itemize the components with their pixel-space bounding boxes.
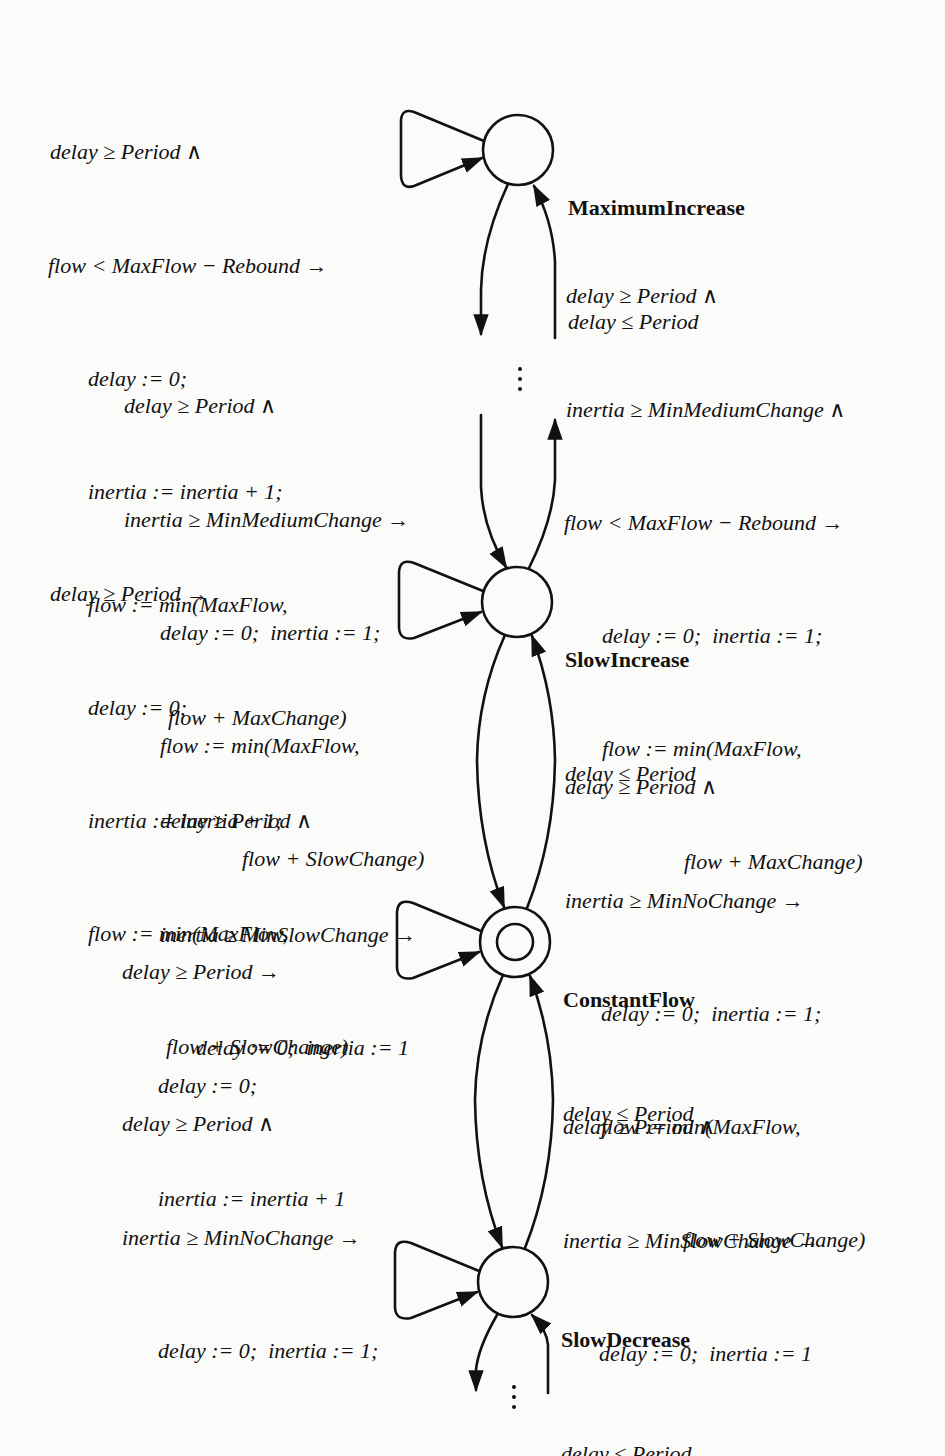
guard-line: delay ≥ Period → — [122, 953, 345, 991]
guard-line: inertia ≥ MinNoChange → — [122, 1219, 420, 1257]
state-invariant: delay ≤ Period — [561, 1435, 692, 1456]
guard-line: delay ≥ Period ∧ — [124, 387, 424, 425]
edge-medium-to-max[interactable] — [534, 186, 555, 338]
guard-line: delay ≥ Period ∧ — [160, 802, 416, 840]
update-line: delay := 0; inertia := 1 — [563, 1335, 819, 1373]
edge-max-to-medium[interactable] — [481, 184, 508, 334]
guard-line: delay ≥ Period ∧ — [122, 1105, 420, 1143]
guard-slowdec-to-const: delay ≥ Period ∧ inertia ≥ MinSlowChange… — [563, 1033, 819, 1410]
edge-next-to-slowdec[interactable] — [532, 1315, 548, 1393]
guard-line: delay ≥ Period → — [50, 575, 348, 613]
guard-line: flow < MaxFlow − Rebound → — [48, 247, 347, 285]
state-node-constant-flow[interactable] — [480, 907, 550, 977]
guard-line: delay ≥ Period ∧ — [565, 768, 865, 806]
state-node-slow-decrease[interactable] — [478, 1247, 548, 1317]
edge-slowinc-to-const[interactable] — [477, 635, 505, 907]
edge-slowdec-to-const[interactable] — [525, 976, 553, 1248]
guard-line: inertia ≥ MinMediumChange ∧ — [566, 391, 863, 429]
edge-medium-to-slowinc[interactable] — [481, 415, 506, 567]
guard-const-to-slowdec: delay ≥ Period ∧ inertia ≥ MinNoChange →… — [122, 1030, 420, 1456]
guard-line: delay ≥ Period ∧ — [563, 1108, 819, 1146]
edge-max-self-loop[interactable] — [401, 111, 484, 187]
edge-const-to-slowdec[interactable] — [475, 975, 503, 1247]
update-line: flow := max(MinFlow, — [122, 1445, 420, 1456]
guard-line: inertia ≥ MinSlowChange → — [563, 1222, 819, 1260]
ellipsis-below-slow-decrease — [512, 1385, 516, 1415]
update-line: delay := 0; inertia := 1; — [565, 995, 865, 1033]
guard-line: flow < MaxFlow − Rebound → — [564, 504, 863, 542]
guard-line: inertia ≥ MinNoChange → — [565, 882, 865, 920]
update-line: delay := 0; inertia := 1; — [566, 617, 863, 655]
edge-const-to-slowinc[interactable] — [527, 636, 555, 908]
ellipsis-medium-increase — [518, 367, 522, 397]
edge-slowinc-to-medium[interactable] — [529, 420, 555, 568]
guard-line: delay ≥ Period ∧ — [50, 133, 347, 171]
state-node-slow-increase[interactable] — [482, 567, 552, 637]
edge-slowdec-to-next[interactable] — [476, 1315, 497, 1390]
update-line: delay := 0; — [50, 689, 348, 727]
state-node-maximum-increase[interactable] — [483, 115, 553, 185]
update-line: delay := 0; inertia := 1; — [122, 1332, 420, 1370]
guard-line: delay ≥ Period ∧ — [566, 277, 863, 315]
